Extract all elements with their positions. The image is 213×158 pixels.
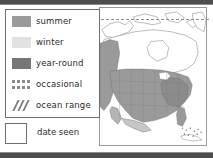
winter-swatch (6, 37, 36, 48)
occasional-swatch (6, 79, 36, 90)
date-seen-checkbox[interactable] (5, 123, 27, 144)
legend-item-year-round[interactable]: year-round (6, 53, 101, 74)
legend-label-ocean-range: ocean range (36, 101, 91, 110)
legend-label-year-round: year-round (36, 59, 84, 68)
map-greenland (192, 12, 206, 32)
legend-label-occasional: occasional (36, 80, 82, 89)
legend-item-winter[interactable]: winter (6, 32, 101, 53)
range-map (99, 7, 207, 146)
map-florida (177, 107, 187, 127)
map-caribbean (180, 134, 202, 141)
map-svg (100, 8, 206, 145)
legend-item-occasional[interactable]: occasional (6, 74, 101, 95)
summer-swatch (6, 16, 36, 27)
figure-root: summer winter year-round oc (0, 0, 213, 158)
legend: summer winter year-round oc (5, 9, 100, 118)
year-round-swatch (6, 58, 36, 69)
legend-label-winter: winter (36, 38, 64, 47)
ocean-range-swatch (6, 100, 36, 111)
date-seen-row: date seen (5, 122, 100, 148)
top-rail (0, 0, 213, 5)
legend-item-ocean-range[interactable]: ocean range (6, 95, 101, 116)
map-baja (110, 107, 122, 125)
bottom-rail (0, 152, 213, 158)
date-seen-label: date seen (37, 128, 79, 137)
legend-label-summer: summer (36, 17, 72, 26)
legend-item-summer[interactable]: summer (6, 11, 101, 32)
